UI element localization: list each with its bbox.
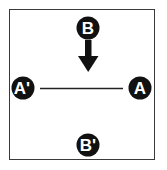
node-b-prime-label: B' — [80, 136, 96, 155]
node-b: B — [77, 17, 100, 40]
node-b-label: B — [82, 19, 94, 38]
node-a: A — [129, 77, 152, 100]
node-b-prime: B' — [77, 134, 100, 157]
down-arrow-icon — [78, 40, 99, 72]
node-a-prime: A' — [12, 77, 35, 100]
node-a-prime-label: A' — [14, 79, 30, 98]
node-a-label: A — [134, 79, 146, 98]
diagram-canvas: B A' A B' — [0, 0, 167, 170]
